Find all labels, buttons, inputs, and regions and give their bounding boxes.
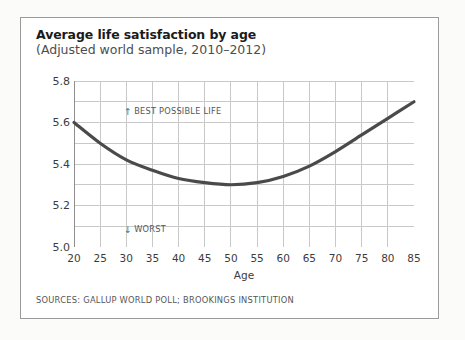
chart-sources: SOURCES: GALLUP WORLD POLL; BROOKINGS IN… bbox=[36, 295, 294, 305]
y-axis-tick-label: 5.2 bbox=[36, 200, 70, 211]
x-axis-tick-label: 40 bbox=[166, 253, 192, 264]
x-axis-tick-label: 55 bbox=[244, 253, 270, 264]
x-axis-tick-label: 20 bbox=[61, 253, 87, 264]
y-axis-tick-label: 5.0 bbox=[36, 242, 70, 253]
y-axis-tick-label: 5.8 bbox=[36, 76, 70, 87]
arrow-down-icon: ↓ bbox=[124, 225, 132, 234]
plot-canvas: ↑BEST POSSIBLE LIFE ↓WORST bbox=[74, 81, 414, 247]
x-axis-tick-label: 70 bbox=[323, 253, 349, 264]
y-axis-tick-label: 5.6 bbox=[36, 117, 70, 128]
plot-area: ↑BEST POSSIBLE LIFE ↓WORST 5.05.25.45.65… bbox=[36, 73, 426, 288]
chart-card: Average life satisfaction by age (Adjust… bbox=[20, 17, 439, 319]
annotation-best-label: BEST POSSIBLE LIFE bbox=[134, 106, 221, 116]
x-axis-tick-label: 85 bbox=[401, 253, 427, 264]
x-axis-tick-label: 25 bbox=[87, 253, 113, 264]
x-axis-tick-label: 60 bbox=[270, 253, 296, 264]
page-title: Average life satisfaction by age bbox=[36, 27, 426, 42]
chart-title-block: Average life satisfaction by age (Adjust… bbox=[36, 27, 426, 58]
x-axis-tick-label: 35 bbox=[139, 253, 165, 264]
arrow-up-icon: ↑ bbox=[124, 107, 132, 116]
annotation-best-possible-life: ↑BEST POSSIBLE LIFE bbox=[124, 106, 221, 116]
page-background: Average life satisfaction by age (Adjust… bbox=[0, 0, 465, 340]
x-axis-title: Age bbox=[74, 269, 414, 281]
x-axis-tick-label: 75 bbox=[349, 253, 375, 264]
x-axis-tick-label: 65 bbox=[296, 253, 322, 264]
chart-subtitle: (Adjusted world sample, 2010–2012) bbox=[36, 42, 426, 58]
annotation-worst: ↓WORST bbox=[124, 224, 166, 234]
y-axis-tick-label: 5.4 bbox=[36, 159, 70, 170]
x-axis-tick-label: 80 bbox=[375, 253, 401, 264]
x-axis-tick-label: 45 bbox=[192, 253, 218, 264]
annotation-worst-label: WORST bbox=[134, 224, 166, 234]
x-axis-tick-label: 50 bbox=[218, 253, 244, 264]
x-axis-tick-label: 30 bbox=[113, 253, 139, 264]
